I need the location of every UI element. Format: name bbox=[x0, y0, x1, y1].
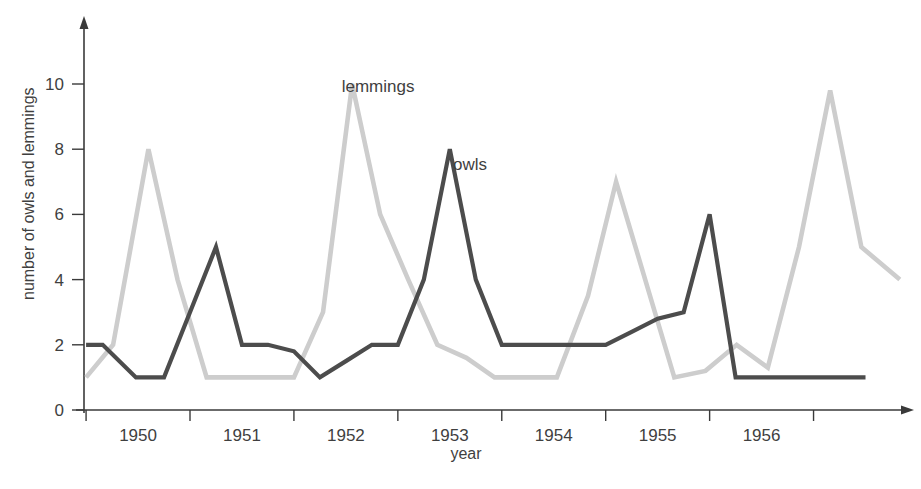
x-axis-ticks bbox=[86, 410, 813, 421]
x-tick-label-1953: 1953 bbox=[431, 426, 469, 445]
series-label-owls: owls bbox=[453, 155, 487, 174]
y-tick-label-2: 2 bbox=[55, 336, 64, 355]
data-series-group bbox=[86, 84, 900, 377]
series-line-owls bbox=[86, 149, 865, 377]
chart-container: 0246810 1950195119521953195419551956 owl… bbox=[0, 0, 921, 489]
y-tick-label-10: 10 bbox=[45, 75, 64, 94]
x-tick-label-1950: 1950 bbox=[119, 426, 157, 445]
y-axis-title: number of owls and lemmings bbox=[20, 87, 37, 300]
series-line-lemmings bbox=[86, 84, 900, 377]
y-axis-arrowhead bbox=[80, 16, 89, 29]
x-axis-title: year bbox=[450, 445, 482, 462]
x-tick-label-1955: 1955 bbox=[639, 426, 677, 445]
x-tick-label-1951: 1951 bbox=[223, 426, 261, 445]
y-axis-tick-labels: 0246810 bbox=[45, 75, 64, 420]
y-tick-label-4: 4 bbox=[55, 271, 64, 290]
x-axis-arrowhead bbox=[901, 406, 914, 415]
x-tick-label-1954: 1954 bbox=[535, 426, 573, 445]
line-chart: 0246810 1950195119521953195419551956 owl… bbox=[0, 0, 921, 489]
x-tick-label-1952: 1952 bbox=[327, 426, 365, 445]
y-axis-ticks bbox=[72, 84, 84, 410]
y-tick-label-6: 6 bbox=[55, 205, 64, 224]
series-label-lemmings: lemmings bbox=[342, 77, 415, 96]
y-tick-label-0: 0 bbox=[55, 401, 64, 420]
y-tick-label-8: 8 bbox=[55, 140, 64, 159]
x-axis-tick-labels: 1950195119521953195419551956 bbox=[119, 426, 780, 445]
series-annotations-group: owlslemmings bbox=[342, 77, 487, 174]
x-tick-label-1956: 1956 bbox=[743, 426, 781, 445]
